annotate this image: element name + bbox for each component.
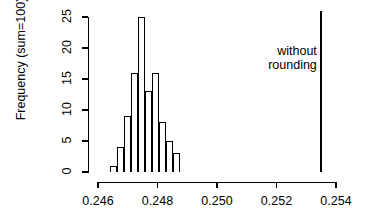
- histogram-bar: [117, 147, 124, 172]
- histogram-bar: [124, 116, 131, 172]
- x-tick-label: 0.252: [247, 194, 307, 208]
- y-tick-mark: [82, 16, 88, 17]
- x-tick-label: 0.248: [128, 194, 188, 208]
- histogram-bar: [145, 91, 152, 172]
- y-tick-label: 15: [60, 65, 74, 91]
- y-tick-label: 20: [60, 34, 74, 60]
- x-tick-mark: [335, 182, 336, 188]
- x-tick-label: 0.254: [306, 194, 366, 208]
- histogram-bar: [131, 73, 138, 172]
- y-axis-line: [88, 17, 89, 173]
- y-tick-label: 25: [60, 3, 74, 29]
- x-tick-mark: [157, 182, 158, 188]
- histogram-bar: [152, 73, 159, 172]
- y-tick-label: 5: [60, 127, 74, 153]
- without-rounding-label-line1: without: [195, 44, 317, 58]
- x-tick-mark: [216, 182, 217, 188]
- without-rounding-line: [320, 11, 322, 172]
- x-tick-mark: [97, 182, 98, 188]
- histogram-bar: [159, 122, 166, 172]
- histogram-bar: [166, 141, 173, 172]
- y-tick-mark: [82, 47, 88, 48]
- x-tick-mark: [276, 182, 277, 188]
- y-tick-label: 0: [60, 158, 74, 184]
- y-tick-label: 10: [60, 96, 74, 122]
- histogram-bar: [173, 153, 180, 172]
- without-rounding-label: withoutrounding: [195, 44, 317, 72]
- x-tick-label: 0.246: [68, 194, 128, 208]
- y-tick-mark: [82, 140, 88, 141]
- histogram-bar: [110, 166, 117, 172]
- y-tick-mark: [82, 78, 88, 79]
- without-rounding-label-line2: rounding: [195, 58, 317, 72]
- histogram-bar: [138, 17, 145, 172]
- y-tick-mark: [82, 109, 88, 110]
- histogram-figure: Frequency (sum=100) 0510152025 0.2460.24…: [0, 0, 367, 222]
- x-tick-label: 0.250: [187, 194, 247, 208]
- y-axis-label: Frequency (sum=100): [14, 0, 28, 134]
- y-tick-mark: [82, 171, 88, 172]
